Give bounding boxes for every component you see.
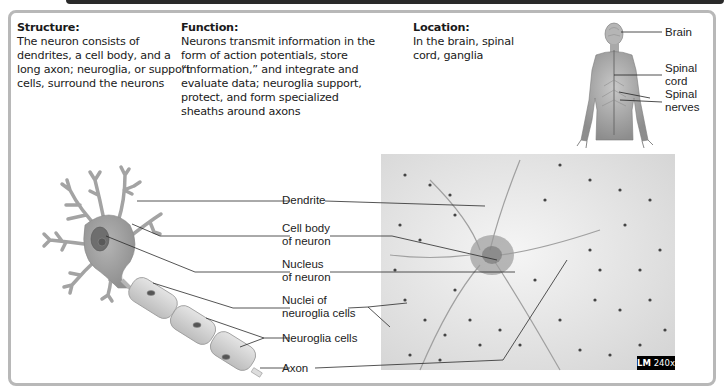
label-spinal-cord: Spinal cord xyxy=(665,62,697,88)
label-cell-body-line1: Cell body xyxy=(282,222,330,234)
label-spinal-nerves-line1: Spinal xyxy=(665,88,697,100)
label-dendrite: Dendrite xyxy=(282,194,325,207)
label-spinal-cord-line2: cord xyxy=(665,75,687,87)
label-cell-body-line2: of neuron xyxy=(282,235,331,247)
label-nucleus-line1: Nucleus xyxy=(282,258,324,270)
label-nucleus: Nucleus of neuron xyxy=(282,258,331,284)
label-spinal-nerves: Spinal nerves xyxy=(665,88,700,114)
label-nuclei-neuroglia: Nuclei of neuroglia cells xyxy=(282,294,356,320)
label-cell-body: Cell body of neuron xyxy=(282,222,331,248)
human-figure xyxy=(577,23,653,148)
micrograph-image xyxy=(381,154,675,370)
label-axon: Axon xyxy=(282,362,308,375)
badge-magnification: 240x xyxy=(654,358,675,368)
label-neuroglia-cells: Neuroglia cells xyxy=(282,332,357,345)
label-nuclei-neuroglia-line2: neuroglia cells xyxy=(282,307,356,319)
label-spinal-cord-line1: Spinal xyxy=(665,62,697,74)
label-nucleus-line2: of neuron xyxy=(282,271,331,283)
magnification-badge: LM 240x xyxy=(637,356,675,370)
label-brain: Brain xyxy=(665,26,692,39)
label-spinal-nerves-line2: nerves xyxy=(665,101,700,113)
label-nuclei-neuroglia-line1: Nuclei of xyxy=(282,294,327,306)
body-figure-illustration xyxy=(0,0,727,392)
badge-prefix: LM xyxy=(637,358,651,368)
